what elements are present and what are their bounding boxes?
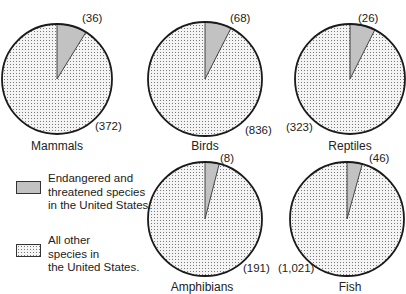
- value-label-endangered-fish: (46): [369, 152, 389, 165]
- pie-title-mammals: Mammals: [31, 139, 83, 153]
- legend-label-endangered: Endangered and threatened species in the…: [48, 172, 152, 213]
- value-label-endangered-reptiles: (26): [358, 12, 378, 25]
- value-label-endangered-mammals: (36): [82, 12, 102, 25]
- pie-title-reptiles: Reptiles: [328, 139, 371, 153]
- legend-line: species in: [48, 248, 139, 262]
- pie-title-birds: Birds: [191, 139, 218, 153]
- legend-label-other: All other species in the United States.: [48, 234, 139, 275]
- value-label-other-birds: (836): [245, 124, 272, 137]
- value-label-endangered-birds: (68): [230, 12, 250, 25]
- value-label-other-mammals: (372): [95, 120, 122, 133]
- pie-title-fish: Fish: [339, 280, 362, 294]
- pie-reptiles: [295, 24, 405, 134]
- pie-title-amphibians: Amphibians: [171, 280, 234, 294]
- pie-mammals: [2, 24, 112, 134]
- value-label-other-amphibians: (191): [243, 262, 270, 275]
- legend-line: the United States.: [48, 261, 139, 275]
- legend-line: in the United States.: [48, 199, 152, 213]
- value-label-endangered-amphibians: (8): [220, 152, 234, 165]
- legend-swatch-other: [16, 244, 41, 257]
- value-label-other-fish: (1,021): [278, 262, 314, 275]
- pie-amphibians: [148, 162, 262, 276]
- value-label-other-reptiles: (323): [286, 121, 313, 134]
- pie-fish: [290, 162, 404, 276]
- legend-swatch-endangered: [16, 181, 41, 194]
- legend-line: All other: [48, 234, 139, 248]
- pie-birds: [148, 22, 262, 136]
- legend-line: Endangered and: [48, 172, 152, 186]
- legend-line: threatened species: [48, 186, 152, 200]
